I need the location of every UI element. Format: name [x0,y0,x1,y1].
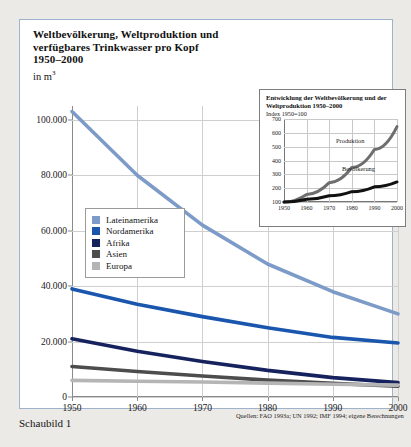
page-title-line-1: Weltbevölkerung, Weltproduktion und [33,28,283,41]
inset-x-axis-tick-label: 1970 [323,205,335,211]
x-axis-tick-label: 1960 [128,403,147,413]
inset-x-axis-tick-label: 1980 [346,205,358,211]
source-note: Quellen: FAO 1993a; UN 1992; IMF 1994; e… [236,412,404,419]
legend-item-label: Afrika [106,238,130,248]
legend-item-label: Asien [106,249,127,259]
unit-exponent: 3 [52,69,56,77]
inset-x-axis-tick-label: 1950 [278,205,290,211]
legend-swatch-icon [92,239,100,247]
y-axis-tick-label: 80.000 [41,170,67,180]
inset-chart-panel: Entwicklung der Weltbevölkerung und der … [259,89,406,227]
figure-title-block: Weltbevölkerung, Weltproduktion und verf… [33,28,283,82]
gridline-horizontal [72,397,398,398]
x-axis-tick-mark [72,397,73,401]
inset-y-axis-tick-label: 500 [272,144,281,150]
x-axis-tick-label: 1950 [63,403,82,413]
inset-y-axis-tick-label: 300 [272,171,281,177]
inset-series-line-bevölkerung [284,182,397,202]
inset-plot-area: 100200300400500600700 195019601970198019… [284,119,397,202]
legend-swatch-icon [92,227,100,235]
unit-prefix: in m [33,70,52,81]
inset-title: Entwicklung der Weltbevölkerung und der … [266,94,402,109]
inset-y-axis-tick-label: 400 [272,158,281,164]
x-axis-tick-mark [202,397,203,401]
legend-item: Europa [92,260,178,271]
x-axis-tick-mark [398,397,399,401]
inset-gridline-horizontal [284,202,397,203]
figure-caption: Schaubild 1 [19,417,71,429]
inset-x-axis-tick-label: 1990 [368,205,380,211]
y-axis-unit-label: in m3 [33,67,283,83]
inset-annotation-produktion: Produktion [336,137,364,144]
y-axis-tick-label: 40.000 [41,281,67,291]
inset-annotation-bevoelkerung: Bevölkerung [342,165,375,172]
legend-swatch-icon [92,262,100,270]
inset-gridline-vertical [397,119,398,202]
figure-page: Weltbevölkerung, Weltproduktion und verf… [0,0,411,447]
page-title-line-3: 1950–2000 [33,53,283,66]
inset-title-line-1: Entwicklung der Weltbevölkerung und der [266,94,387,101]
inset-x-axis-tick-label: 2000 [391,205,403,211]
inset-title-line-2: Weltproduktion 1950–2000 [266,102,342,109]
series-line-europa [72,380,398,385]
legend-swatch-icon [92,216,100,224]
legend-item: Lateinamerika [92,214,178,225]
page-title-line-2: verfügbares Trinkwasser pro Kopf [33,41,283,54]
figure-frame: Weltbevölkerung, Weltproduktion und verf… [19,19,393,409]
chart-legend: LateinamerikaNordamerikaAfrikaAsienEurop… [85,208,185,278]
x-axis-tick-mark [268,397,269,401]
inset-series-lines [284,119,397,202]
series-line-afrika [72,339,398,383]
inset-y-axis-tick-label: 600 [272,130,281,136]
legend-item: Asien [92,249,178,260]
inset-y-axis-tick-label: 200 [272,185,281,191]
legend-item: Afrika [92,237,178,248]
y-axis-tick-label: 20.000 [41,337,67,347]
inset-x-axis-tick-label: 1960 [301,205,313,211]
legend-item: Nordamerika [92,226,178,237]
inset-y-axis-tick-label: 700 [272,116,281,122]
y-axis-tick-label: 100.000 [36,115,67,125]
x-axis-tick-mark [333,397,334,401]
legend-item-label: Nordamerika [106,226,153,236]
y-axis-tick-label: 0 [62,392,67,402]
legend-swatch-icon [92,250,100,258]
y-axis-tick-label: 60.000 [41,226,67,236]
legend-item-label: Lateinamerika [106,215,158,225]
legend-item-label: Europa [106,261,132,271]
x-axis-tick-mark [137,397,138,401]
x-axis-tick-label: 1970 [193,403,212,413]
